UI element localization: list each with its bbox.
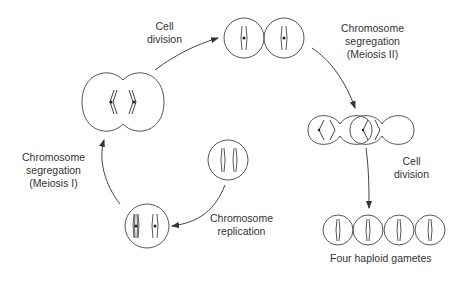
label-line: Chromosome [341,22,404,35]
replicated-cell [125,204,169,248]
label-line: (Meiosis I) [22,177,85,190]
label-line: replication [210,225,273,238]
label-gametes: Four haploid gametes [330,252,432,265]
label-meiosis-i: Chromosome segregation (Meiosis I) [22,151,85,190]
label-line: Chromosome [210,212,273,225]
diploid-cell [208,140,248,180]
arrows [102,38,369,226]
arrow-cell-division-right [366,148,369,208]
label-replication: Chromosome replication [210,212,273,238]
two-cells [224,18,304,58]
arrow-meiosis-i [102,140,120,204]
label-cell-division-right: Cell division [394,155,429,181]
meiosis-ii-cells [308,116,414,145]
four-gametes [323,215,445,245]
label-line: division [394,168,429,181]
label-line: Cell [147,20,182,33]
label-line: division [147,33,182,46]
label-line: Chromosome [22,151,85,164]
label-line: Cell [394,155,429,168]
label-line: segregation [22,164,85,177]
meiosis-diagram: Cell division Chromosome segregation (Me… [0,0,466,281]
label-cell-division-top: Cell division [147,20,182,46]
label-line: segregation [341,35,404,48]
meiosis-i-cell [82,73,164,131]
label-meiosis-ii: Chromosome segregation (Meiosis II) [341,22,404,61]
label-line: (Meiosis II) [341,48,404,61]
